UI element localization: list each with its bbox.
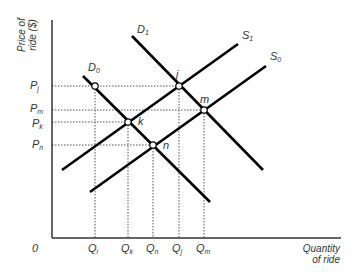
quantity-label-qn: Qn <box>146 243 158 255</box>
point-label-m: m <box>200 94 209 105</box>
point-m <box>201 107 207 113</box>
diagram-canvas <box>0 0 358 279</box>
point-n <box>150 142 156 148</box>
x-axis-title: Quantity of ride <box>290 243 340 265</box>
supply-demand-diagram: Price of ride ($) Quantity of ride 0 Pj … <box>0 0 358 279</box>
curve-label-s1: S1 <box>242 30 253 42</box>
quantity-label-qm: Qm <box>196 243 210 255</box>
point-label-j: j <box>176 69 178 80</box>
price-label-pn: Pn <box>32 139 43 151</box>
origin-label: 0 <box>32 243 38 254</box>
x-axis-title-line2: of ride <box>290 254 340 265</box>
quantity-label-qi: Qi <box>88 243 98 255</box>
quantity-label-qj: Qj <box>172 243 182 255</box>
price-label-pk: Pk <box>32 118 43 130</box>
curve-label-d1: D1 <box>137 24 149 36</box>
curve-label-d0: D0 <box>88 62 100 74</box>
x-axis-title-line1: Quantity <box>290 243 340 254</box>
point-j <box>176 83 182 89</box>
curve-label-s0: S0 <box>270 51 281 63</box>
point-label-n: n <box>163 140 169 151</box>
price-label-pm: Pm <box>30 103 43 115</box>
y-axis-title-line2: ride ($) <box>27 10 38 60</box>
y-axis-title-line1: Price of <box>16 10 27 60</box>
point-i <box>92 83 98 89</box>
point-label-k: k <box>138 116 144 127</box>
price-label-pj: Pj <box>30 80 39 92</box>
demand-curve-d1 <box>132 36 263 170</box>
points <box>92 83 207 148</box>
point-k <box>125 119 131 125</box>
quantity-label-qk: Qk <box>121 243 133 255</box>
